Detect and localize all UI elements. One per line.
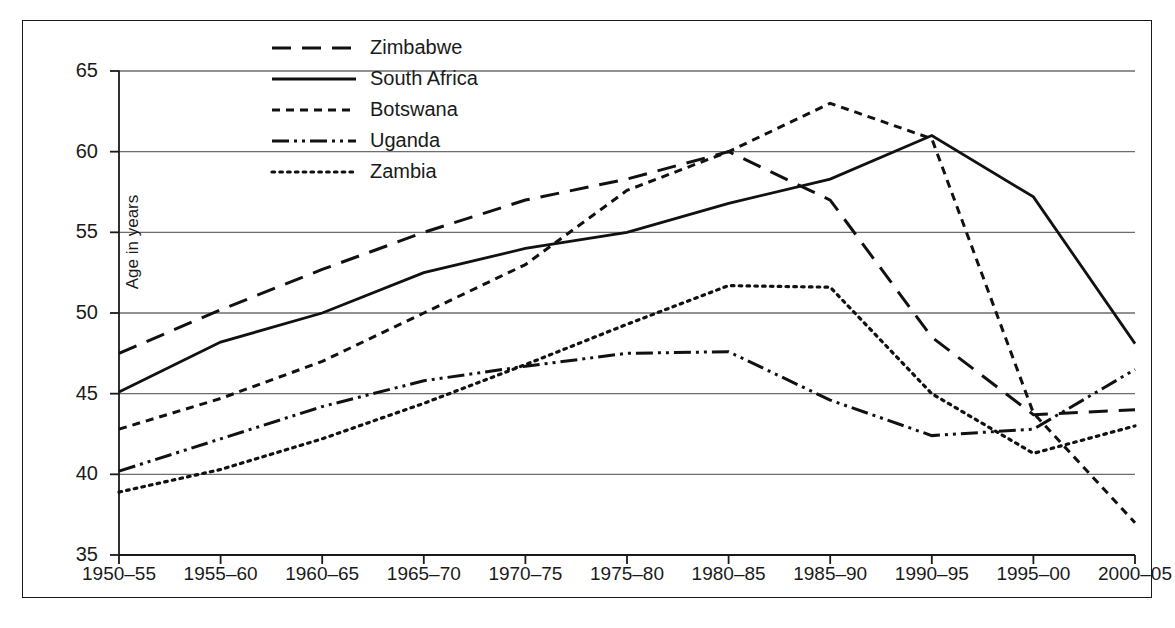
chart-figure: Age in years 65605550454035 1950–551955–… [0, 0, 1175, 628]
legend-item-zimbabwe: Zimbabwe [270, 32, 530, 63]
legend-swatch-dotted-icon [270, 163, 358, 181]
legend-item-botswana: Botswana [270, 94, 530, 125]
legend-label: South Africa [358, 67, 478, 90]
series-line-zambia [119, 286, 1135, 493]
legend-swatch-long-dash-icon [270, 39, 358, 57]
x-axis-ticks: 1950–551955–601960–651965–701970–751975–… [0, 563, 1175, 603]
y-axis-ticks: Age in years 65605550454035 [46, 0, 98, 628]
legend-swatch-solid-icon [270, 70, 358, 88]
legend-label: Zambia [358, 160, 437, 183]
y-tick-label: 65 [52, 60, 98, 80]
chart-legend: ZimbabweSouth AfricaBotswanaUgandaZambia [270, 32, 530, 187]
legend-label: Botswana [358, 98, 458, 121]
legend-item-south-africa: South Africa [270, 63, 530, 94]
y-axis-label: Age in years [123, 152, 143, 332]
y-tick-label: 50 [52, 302, 98, 322]
line-chart-plot [0, 0, 1175, 628]
x-tick-label: 2000–05 [1070, 563, 1175, 585]
y-tick-label: 45 [52, 383, 98, 403]
y-tick-label: 40 [52, 463, 98, 483]
y-tick-label: 55 [52, 221, 98, 241]
y-tick-label: 35 [52, 544, 98, 564]
legend-item-uganda: Uganda [270, 125, 530, 156]
legend-swatch-short-dash-icon [270, 101, 358, 119]
y-tick-label: 60 [52, 141, 98, 161]
legend-label: Zimbabwe [358, 36, 462, 59]
legend-label: Uganda [358, 129, 440, 152]
legend-item-zambia: Zambia [270, 156, 530, 187]
legend-swatch-dash-dot-dot-icon [270, 132, 358, 150]
